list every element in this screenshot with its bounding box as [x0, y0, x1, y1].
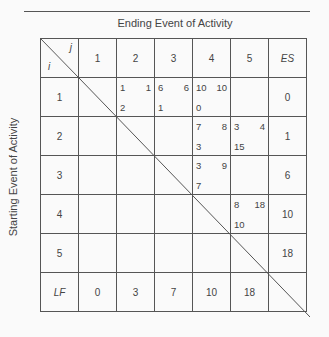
column-axis-title: Ending Event of Activity	[40, 17, 310, 29]
lf-4: 10	[193, 273, 231, 312]
lf-es-empty	[269, 273, 307, 312]
row-header-3: 3	[41, 156, 79, 195]
cell-3-1	[79, 156, 117, 195]
cell-4-5: 8 18 10	[231, 195, 269, 234]
lf-2: 3	[117, 273, 155, 312]
activity-matrix: j i 1 2 3 4 5 ES 1 1 1 2 6 6 1 10 10 0 0…	[40, 38, 307, 312]
cell-3-5	[231, 156, 269, 195]
cell-1-4: 10 10 0	[193, 78, 231, 117]
row-header-5: 5	[41, 234, 79, 273]
lf-3: 7	[155, 273, 193, 312]
col-header-3: 3	[155, 39, 193, 78]
lf-row: LF 0 3 7 10 18	[41, 273, 307, 312]
row-header-2: 2	[41, 117, 79, 156]
col-header-es: ES	[269, 39, 307, 78]
cell-2-5: 3 4 15	[231, 117, 269, 156]
cell-3-3	[155, 156, 193, 195]
i-label: i	[48, 61, 50, 72]
es-4: 10	[269, 195, 307, 234]
cell-1-1	[79, 78, 117, 117]
cell-5-1	[79, 234, 117, 273]
es-3: 6	[269, 156, 307, 195]
col-header-5: 5	[231, 39, 269, 78]
cell-5-5	[231, 234, 269, 273]
col-header-1: 1	[79, 39, 117, 78]
cell-2-2	[117, 117, 155, 156]
col-header-2: 2	[117, 39, 155, 78]
table-row: 4 8 18 10 10	[41, 195, 307, 234]
es-5: 18	[269, 234, 307, 273]
cell-1-2: 1 1 2	[117, 78, 155, 117]
table-row: 5 18	[41, 234, 307, 273]
table-row: 3 3 9 7 6	[41, 156, 307, 195]
cell-2-1	[79, 117, 117, 156]
cell-1-3: 6 6 1	[155, 78, 193, 117]
col-header-4: 4	[193, 39, 231, 78]
header-row: j i 1 2 3 4 5 ES	[41, 39, 307, 78]
cell-5-2	[117, 234, 155, 273]
cell-3-4: 3 9 7	[193, 156, 231, 195]
corner-cell: j i	[41, 39, 79, 78]
row-axis-title: Starting Event of Activity	[7, 118, 19, 237]
cell-2-4: 7 8 3	[193, 117, 231, 156]
top-rule	[24, 11, 310, 12]
cell-1-5	[231, 78, 269, 117]
cell-5-3	[155, 234, 193, 273]
lf-1: 0	[79, 273, 117, 312]
cell-4-4	[193, 195, 231, 234]
lf-label: LF	[41, 273, 79, 312]
lf-5: 18	[231, 273, 269, 312]
cell-4-1	[79, 195, 117, 234]
cell-3-2	[117, 156, 155, 195]
table-row: 1 1 1 2 6 6 1 10 10 0 0	[41, 78, 307, 117]
cell-4-2	[117, 195, 155, 234]
cell-5-4	[193, 234, 231, 273]
table-row: 2 7 8 3 3 4 15 1	[41, 117, 307, 156]
row-header-4: 4	[41, 195, 79, 234]
j-label: j	[70, 42, 72, 53]
cell-2-3	[155, 117, 193, 156]
row-header-1: 1	[41, 78, 79, 117]
cell-4-3	[155, 195, 193, 234]
es-2: 1	[269, 117, 307, 156]
es-1: 0	[269, 78, 307, 117]
